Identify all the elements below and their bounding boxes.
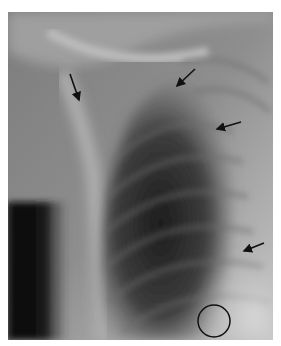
- circle-marker-icon: [198, 305, 230, 337]
- arrow-icon: [70, 74, 79, 100]
- annotation-layer: [0, 0, 281, 346]
- arrow-icon: [217, 122, 241, 129]
- arrow-icon: [177, 69, 195, 86]
- arrow-icon: [244, 243, 264, 251]
